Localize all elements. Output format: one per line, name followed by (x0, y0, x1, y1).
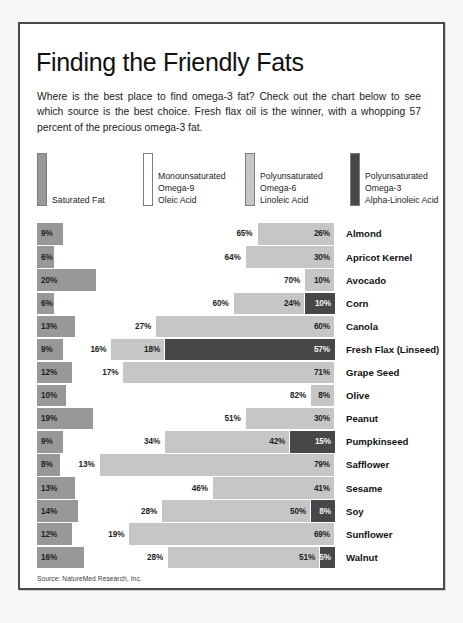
legend-label-line: Omega-3 (365, 183, 438, 195)
bar-segment-omega6: 24% (234, 293, 306, 315)
bar-segment-value: 8% (319, 507, 331, 516)
bar-segment-mono: 16% (64, 339, 112, 361)
bar-track: 13%46%41% (37, 477, 335, 499)
bar-track: 20%70%10% (37, 269, 335, 291)
bar-segment-saturated: 16% (37, 547, 85, 569)
chart-row-label: Canola (346, 321, 378, 332)
bar-track: 9%16%18%57% (37, 339, 335, 361)
chart-row: 13%27%60%Canola (37, 316, 431, 338)
chart-row: 20%70%10%Avocado (37, 269, 431, 291)
chart-legend: Saturated FatMonounsaturatedOmega-9Oleic… (37, 153, 431, 211)
bar-segment-value: 16% (90, 345, 106, 354)
source-note: Source: NatureMed Research, Inc. (37, 575, 431, 582)
bar-segment-omega6: 30% (246, 408, 335, 430)
chart-row: 9%65%26%Almond (37, 223, 431, 245)
bar-segment-mono: 64% (55, 246, 246, 268)
bar-segment-mono: 65% (64, 223, 258, 245)
bar-segment-value: 15% (315, 437, 331, 446)
legend-label-line: Saturated Fat (52, 195, 105, 207)
bar-segment-value: 30% (314, 253, 330, 262)
bar-segment-mono: 70% (97, 269, 306, 291)
bar-segment-omega6: 60% (156, 316, 335, 338)
bar-segment-saturated: 8% (37, 454, 61, 476)
bar-segment-value: 6% (41, 299, 53, 308)
bar-segment-value: 19% (108, 530, 124, 539)
chart-row: 19%51%30%Peanut (37, 408, 431, 430)
legend-label-line: Omega-9 (158, 183, 226, 195)
bar-segment-value: 9% (41, 345, 53, 354)
bar-segment-value: 57% (314, 345, 330, 354)
bar-segment-value: 69% (314, 530, 330, 539)
bar-segment-saturated: 13% (37, 316, 76, 338)
bar-segment-value: 10% (314, 276, 330, 285)
chart-row: 12%19%69%Sunflower (37, 523, 431, 545)
chart-row: 6%60%24%10%Corn (37, 293, 431, 315)
chart-row-label: Apricot Kernel (346, 252, 412, 263)
bar-segment-omega6: 41% (213, 477, 335, 499)
bar-segment-saturated: 10% (37, 385, 67, 407)
bar-segment-value: 8% (318, 391, 330, 400)
bar-segment-mono: 82% (67, 385, 311, 407)
bar-segment-mono: 28% (79, 500, 162, 522)
bar-track: 9%34%42%15% (37, 431, 335, 453)
bar-segment-value: 46% (192, 484, 208, 493)
bar-segment-omega6: 30% (246, 246, 335, 268)
bar-segment-value: 34% (144, 437, 160, 446)
chart-row: 14%28%50%8%Soy (37, 500, 431, 522)
legend-label-line: Omega-6 (260, 183, 323, 195)
bar-segment-value: 51% (224, 414, 240, 423)
bar-segment-saturated: 9% (37, 431, 64, 453)
bar-segment-value: 28% (147, 553, 163, 562)
bar-segment-omega6: 42% (165, 431, 290, 453)
bar-segment-value: 20% (41, 276, 57, 285)
bar-segment-value: 6% (41, 253, 53, 262)
chart-row-label: Walnut (346, 552, 378, 563)
legend-swatch-omega6 (245, 153, 255, 206)
bar-track: 10%82%8% (37, 385, 335, 407)
chart-row-label: Pumpkinseed (346, 436, 408, 447)
bar-segment-saturated: 19% (37, 408, 94, 430)
bar-segment-mono: 46% (76, 477, 213, 499)
legend-swatch-monounsaturated (143, 153, 153, 206)
bar-segment-value: 26% (314, 229, 330, 238)
bar-segment-value: 42% (269, 437, 285, 446)
legend-label-monounsaturated: MonounsaturatedOmega-9Oleic Acid (158, 171, 226, 206)
bar-segment-omega6: 18% (111, 339, 165, 361)
bar-track: 8%13%79% (37, 454, 335, 476)
bar-segment-value: 60% (314, 322, 330, 331)
bar-segment-omega6: 8% (311, 385, 335, 407)
bar-segment-mono: 27% (76, 316, 156, 338)
bar-segment-value: 8% (41, 460, 53, 469)
bar-segment-value: 50% (290, 507, 306, 516)
bar-segment-value: 24% (284, 299, 300, 308)
legend-label-line: Monounsaturated (158, 171, 226, 183)
bar-segment-value: 12% (41, 368, 57, 377)
bar-segment-value: 13% (78, 460, 94, 469)
bar-segment-omega6: 26% (258, 223, 335, 245)
bar-segment-value: 14% (41, 507, 57, 516)
chart-row-label: Grape Seed (346, 367, 399, 378)
legend-label-line: Polyunsaturated (365, 171, 438, 183)
bar-segment-value: 70% (284, 276, 300, 285)
bar-segment-value: 18% (144, 345, 160, 354)
bar-segment-value: 71% (314, 368, 330, 377)
bar-segment-saturated: 12% (37, 362, 73, 384)
bar-segment-mono: 17% (73, 362, 124, 384)
bar-track: 13%27%60% (37, 316, 335, 338)
bar-segment-saturated: 9% (37, 223, 64, 245)
bar-segment-omega6: 79% (100, 454, 335, 476)
intro-paragraph: Where is the best place to find omega-3 … (37, 89, 421, 135)
chart-row: 9%16%18%57%Fresh Flax (Linseed) (37, 339, 431, 361)
page-background: Finding the Friendly Fats Where is the b… (0, 0, 463, 623)
bar-segment-value: 13% (41, 484, 57, 493)
legend-label-saturated: Saturated Fat (52, 195, 105, 207)
bar-segment-mono: 60% (55, 293, 234, 315)
legend-swatch-omega3 (350, 153, 360, 206)
bar-segment-value: 65% (236, 229, 252, 238)
legend-label-line: Polyunsaturated (260, 171, 323, 183)
bar-segment-mono: 51% (94, 408, 246, 430)
chart-row: 6%64%30%Apricot Kernel (37, 246, 431, 268)
bar-segment-value: 10% (315, 299, 331, 308)
bar-track: 12%17%71% (37, 362, 335, 384)
bar-segment-omega6: 50% (162, 500, 311, 522)
